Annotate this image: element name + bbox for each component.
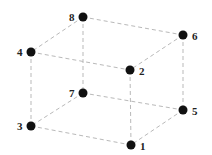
cube-diagram: 12345678 [0, 0, 212, 155]
node-dot [27, 48, 36, 57]
node-dot [179, 106, 188, 115]
edge-4-2 [31, 52, 130, 70]
node-5: 5 [179, 105, 199, 117]
node-8: 8 [69, 11, 88, 23]
edge-8-4 [31, 17, 83, 52]
edge-8-6 [83, 17, 183, 35]
node-label: 3 [17, 120, 23, 132]
diagram-canvas: 12345678 [0, 0, 212, 155]
node-label: 1 [140, 140, 146, 152]
edge-6-2 [130, 35, 183, 70]
node-layer: 12345678 [17, 11, 198, 152]
node-label: 4 [17, 46, 23, 58]
node-label: 5 [192, 105, 198, 117]
node-dot [127, 141, 136, 150]
edge-layer [31, 17, 183, 145]
node-3: 3 [17, 120, 36, 132]
node-label: 6 [192, 30, 198, 42]
node-dot [79, 89, 88, 98]
node-7: 7 [69, 87, 88, 99]
node-dot [27, 122, 36, 131]
node-dot [179, 31, 188, 40]
node-label: 8 [69, 11, 75, 23]
node-6: 6 [179, 30, 199, 42]
edge-2-1 [130, 70, 131, 145]
edge-3-1 [31, 126, 131, 145]
node-label: 7 [69, 87, 75, 99]
edge-5-1 [131, 110, 183, 145]
node-label: 2 [139, 65, 145, 77]
node-4: 4 [17, 46, 36, 58]
edge-7-3 [31, 93, 83, 126]
node-dot [79, 13, 88, 22]
node-dot [126, 66, 135, 75]
edge-7-5 [83, 93, 183, 110]
